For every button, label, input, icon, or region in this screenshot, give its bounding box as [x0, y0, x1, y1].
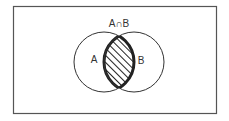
intersection-label: A∩B: [109, 18, 130, 29]
set-a-label: A: [91, 54, 98, 65]
venn-diagram: A∩B A B: [0, 0, 229, 121]
set-b-label: B: [138, 55, 145, 66]
